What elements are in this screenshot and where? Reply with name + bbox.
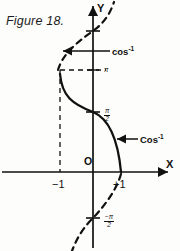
y-tick-label-neg-pi-over-2: −π 2 (104, 214, 114, 228)
fraction-numerator: −π (104, 214, 114, 221)
x-tick-label-minus-one: −1 (52, 178, 65, 190)
callout-cos-principal: Cos-1 (140, 133, 164, 145)
inverse-cosine-plot (0, 0, 180, 251)
y-tick-label-pi-over-2: π 2 (104, 108, 110, 122)
y-tick-label-pi: π (104, 66, 108, 73)
origin-label: O (84, 155, 92, 167)
callout-exponent-text: -1 (158, 133, 164, 140)
callout-exponent-text: -1 (128, 45, 134, 52)
callout-cos-multivalued: cos-1 (112, 45, 134, 57)
figure-container: Figure 18. Y X O −1 +1 π π 2 −π 2 cos-1 … (0, 0, 180, 251)
fraction-denominator: 2 (104, 221, 114, 229)
curve-cos-upper-dashed (58, 2, 114, 70)
callout-base-text: Cos (140, 134, 158, 145)
callout-base-text: cos (112, 46, 128, 57)
y-axis-label: Y (97, 2, 104, 14)
fraction-numerator-text: π (109, 213, 113, 220)
x-axis-label: X (166, 158, 173, 170)
x-tick-label-plus-one: +1 (113, 178, 126, 190)
fraction-numerator: π (104, 108, 110, 115)
fraction-denominator: 2 (104, 115, 110, 123)
figure-caption: Figure 18. (6, 14, 64, 28)
